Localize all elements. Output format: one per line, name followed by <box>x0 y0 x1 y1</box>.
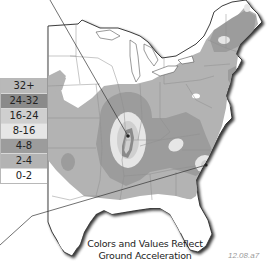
map-caption: Colors and Values Reflect Ground Acceler… <box>80 238 210 262</box>
legend-item-24-32: 24-32 <box>1 94 47 109</box>
legend-item-32-plus: 32+ <box>1 79 47 94</box>
figure-id: 12.08.a7 <box>228 251 259 260</box>
legend-item-2-4: 2-4 <box>1 154 47 169</box>
epicenter-marker-new-madrid <box>126 134 130 138</box>
legend-item-16-24: 16-24 <box>1 109 47 124</box>
epicenter-marker-charleston <box>204 163 207 166</box>
legend-item-8-16: 8-16 <box>1 124 47 139</box>
legend-item-4-8: 4-8 <box>1 139 47 154</box>
caption-line-1: Colors and Values Reflect <box>80 238 210 250</box>
legend-item-0-2: 0-2 <box>1 169 47 183</box>
legend: 32+ 24-32 16-24 8-16 4-8 2-4 0-2 <box>0 78 47 184</box>
caption-line-2: Ground Acceleration <box>80 250 210 262</box>
